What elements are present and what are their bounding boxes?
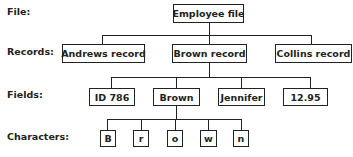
connector: [102, 35, 312, 36]
node-char-n: n: [233, 130, 249, 147]
level-label-records: Records:: [7, 46, 54, 57]
connector: [107, 119, 108, 130]
connector: [208, 119, 209, 130]
node-char-b: B: [100, 130, 116, 147]
connector: [102, 35, 103, 44]
connector: [176, 77, 177, 88]
connector: [141, 119, 142, 130]
connector: [311, 35, 312, 44]
level-label-file: File:: [7, 6, 30, 17]
node-char-r: r: [133, 130, 149, 147]
connector: [111, 77, 112, 88]
node-field-lastname: Brown: [153, 88, 200, 106]
connector: [241, 77, 242, 88]
connector: [175, 119, 176, 130]
connector: [209, 63, 210, 77]
connector: [241, 119, 242, 130]
node-record-brown: Brown record: [172, 44, 247, 63]
level-label-characters: Characters:: [7, 131, 69, 142]
connector: [176, 106, 177, 119]
level-label-fields: Fields:: [7, 89, 43, 100]
connector: [111, 77, 311, 78]
connector: [209, 35, 210, 44]
node-char-w: w: [200, 130, 217, 147]
node-char-o: o: [167, 130, 183, 147]
node-field-id: ID 786: [89, 88, 135, 106]
node-field-amount: 12.95: [283, 88, 328, 106]
node-field-firstname: Jennifer: [218, 88, 265, 106]
connector: [209, 23, 210, 35]
node-record-andrews: Andrews record: [62, 44, 145, 63]
node-file: Employee file: [173, 4, 244, 23]
connector: [310, 77, 311, 88]
node-record-collins: Collins record: [275, 44, 352, 63]
